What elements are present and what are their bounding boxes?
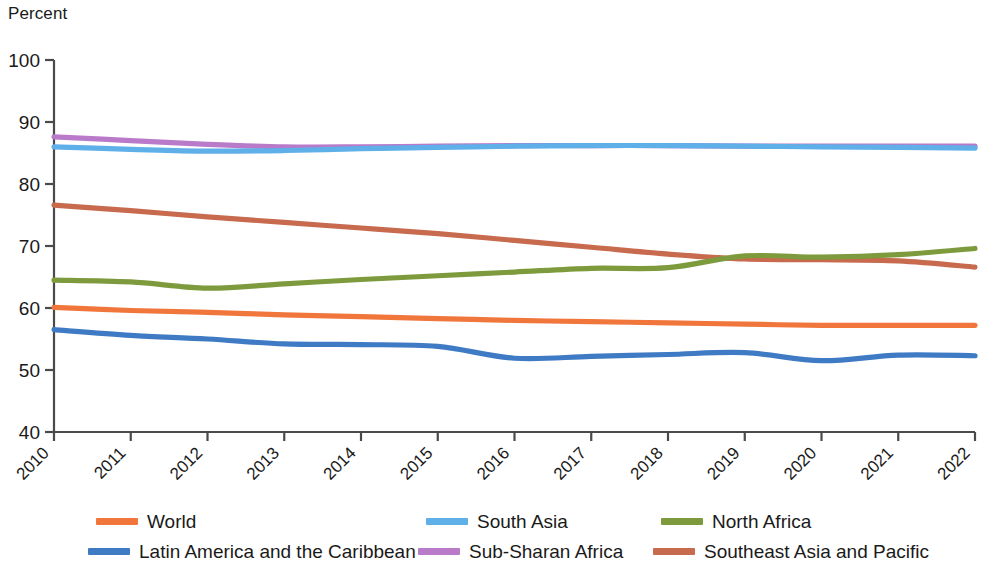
y-axis-tick-label: 60 (19, 298, 40, 319)
legend-color-swatch (418, 548, 460, 555)
series-line (54, 330, 975, 361)
x-axis-tick-label: 2011 (90, 443, 129, 482)
series-line (54, 145, 975, 151)
y-axis-tick-label: 80 (19, 174, 40, 195)
plot-area: 4050607080901002010201120122013201420152… (0, 0, 982, 574)
x-axis-tick-label: 2019 (703, 443, 743, 483)
legend-item[interactable]: South Asia (426, 512, 661, 531)
legend-item[interactable]: Sub-Sharan Africa (418, 542, 661, 561)
x-axis-tick-label: 2017 (550, 443, 590, 483)
legend-item-label: Latin America and the Caribbean (139, 542, 416, 561)
x-axis-tick-label: 2010 (13, 443, 53, 483)
y-axis-tick-label: 70 (19, 236, 40, 257)
legend-color-swatch (96, 518, 138, 525)
legend-item-label: South Asia (477, 512, 568, 531)
y-axis-tick-label: 100 (8, 50, 40, 71)
legend-color-swatch (426, 518, 468, 525)
x-axis-tick-label: 2016 (473, 443, 513, 483)
chart-figure: Percent 40506070809010020102011201220132… (0, 0, 982, 574)
y-axis-tick-label: 90 (19, 112, 40, 133)
x-axis-tick-label: 2021 (857, 443, 897, 483)
legend-item[interactable]: Latin America and the Caribbean (88, 542, 426, 561)
series-line (54, 248, 975, 288)
y-axis-tick-label: 50 (19, 360, 40, 381)
legend-item-label: Sub-Sharan Africa (469, 542, 623, 561)
x-axis-tick-label: 2022 (934, 443, 974, 483)
x-axis-tick-label: 2020 (780, 443, 820, 483)
legend-item[interactable]: North Africa (661, 512, 961, 531)
legend-color-swatch (88, 548, 130, 555)
x-axis-tick-label: 2012 (166, 443, 206, 483)
chart-legend: WorldSouth AsiaNorth AfricaLatin America… (96, 506, 976, 566)
x-axis-tick-label: 2018 (627, 443, 667, 483)
legend-color-swatch (661, 518, 703, 525)
legend-color-swatch (653, 548, 695, 555)
y-axis-tick-label: 40 (19, 422, 40, 443)
legend-item[interactable]: Southeast Asia and Pacific (653, 542, 961, 561)
x-axis-tick-label: 2014 (320, 443, 360, 483)
x-axis-tick-label: 2015 (396, 443, 436, 483)
legend-item-label: Southeast Asia and Pacific (704, 542, 929, 561)
x-axis-tick-label: 2013 (243, 443, 283, 483)
line-chart-canvas: 4050607080901002010201120122013201420152… (0, 0, 982, 574)
series-line (54, 307, 975, 325)
legend-item[interactable]: World (96, 512, 426, 531)
legend-item-label: North Africa (712, 512, 811, 531)
legend-item-label: World (147, 512, 196, 531)
